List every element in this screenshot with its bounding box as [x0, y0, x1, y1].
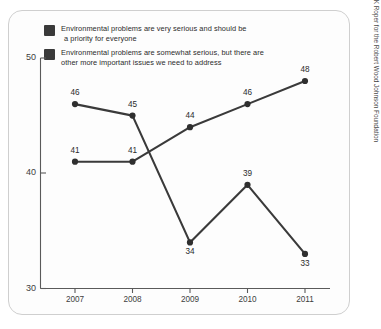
data-point-label: 41	[63, 146, 87, 155]
data-point-label: 34	[178, 247, 202, 256]
x-axis-tick-label: 2010	[231, 295, 265, 304]
data-point-label: 41	[121, 146, 145, 155]
data-point[interactable]	[187, 124, 193, 130]
data-point[interactable]	[129, 113, 135, 119]
chart-figure: Environmental problems are very serious …	[0, 0, 381, 329]
source-note: Source: GfK Roper for the Robert Wood Jo…	[373, 0, 380, 142]
data-point[interactable]	[72, 159, 78, 165]
data-point[interactable]	[244, 182, 250, 188]
x-axis-tick-label: 2011	[288, 295, 322, 304]
data-series-group	[72, 78, 308, 257]
data-point-label: 39	[236, 169, 260, 178]
data-point-label: 46	[63, 88, 87, 97]
data-point[interactable]	[244, 101, 250, 107]
data-point-label: 46	[236, 88, 260, 97]
x-axis-tick-label: 2007	[58, 295, 92, 304]
plot-area	[0, 0, 381, 329]
y-axis-tick-label: 40	[14, 167, 36, 177]
data-point[interactable]	[129, 159, 135, 165]
y-axis-tick-label: 30	[14, 283, 36, 293]
x-axis-tick-label: 2008	[116, 295, 150, 304]
data-point[interactable]	[302, 251, 308, 257]
data-point-label: 33	[293, 259, 317, 268]
data-point-label: 45	[121, 100, 145, 109]
data-point-label: 44	[178, 111, 202, 120]
data-point[interactable]	[187, 239, 193, 245]
data-point[interactable]	[72, 101, 78, 107]
data-point-label: 48	[293, 65, 317, 74]
y-axis-tick-label: 50	[14, 52, 36, 62]
x-axis-tick-label: 2009	[173, 295, 207, 304]
data-point[interactable]	[302, 78, 308, 84]
series-line	[75, 81, 305, 162]
